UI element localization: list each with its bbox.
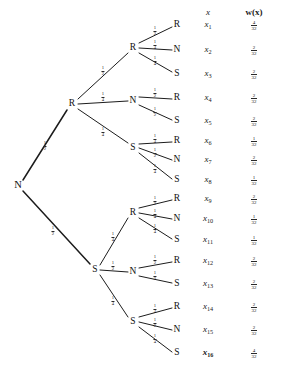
weight-value: 232 bbox=[251, 191, 257, 207]
outcome-label: x4 bbox=[204, 93, 211, 104]
outcome-index: 2 bbox=[208, 48, 211, 55]
fraction: 14 bbox=[101, 127, 104, 137]
leaf-node-s: S bbox=[174, 116, 179, 126]
edge-probability-label: 12 bbox=[153, 251, 156, 267]
column-header-weight: w(x) bbox=[246, 7, 263, 17]
edge-probability-label: 12 bbox=[153, 103, 156, 119]
fraction: 432 bbox=[251, 348, 257, 359]
weight-value: 232 bbox=[251, 42, 257, 58]
outcome-index: 13 bbox=[207, 282, 213, 289]
outcome-label: x10 bbox=[203, 214, 213, 225]
tree-node-n: N bbox=[130, 267, 137, 277]
fraction: 232 bbox=[251, 325, 257, 336]
weight-value: 232 bbox=[251, 299, 257, 315]
outcome-index: 12 bbox=[207, 259, 213, 266]
outcome-index: 5 bbox=[208, 119, 211, 126]
fraction: 232 bbox=[251, 45, 257, 56]
edge-probability-label: 12 bbox=[153, 84, 156, 100]
leaf-node-s: S bbox=[174, 69, 179, 79]
tree-node-r: R bbox=[130, 43, 136, 53]
edge-probability-label: 14 bbox=[111, 228, 114, 244]
tree-edge bbox=[23, 191, 90, 264]
edge-probability-label: 12 bbox=[51, 222, 54, 238]
edge-probability-label: 14 bbox=[153, 36, 156, 52]
fraction: 12 bbox=[111, 261, 114, 271]
fraction: 132 bbox=[251, 235, 257, 246]
outcome-index: 10 bbox=[207, 217, 213, 224]
leaf-node-r: R bbox=[174, 194, 180, 204]
weight-value: 232 bbox=[251, 253, 257, 269]
outcome-index: 4 bbox=[208, 96, 211, 103]
edge-probability-label: 14 bbox=[101, 88, 104, 104]
outcome-index: 7 bbox=[208, 158, 211, 165]
tree-node-r: R bbox=[69, 99, 75, 109]
leaf-node-r: R bbox=[174, 302, 180, 312]
outcome-index: 11 bbox=[207, 238, 213, 245]
edge-probability-label: 12 bbox=[153, 314, 156, 330]
fraction: 132 bbox=[251, 214, 257, 225]
edge-probability-label: 14 bbox=[153, 205, 156, 221]
outcome-label: x8 bbox=[204, 175, 211, 186]
edge-probability-label: 14 bbox=[153, 52, 156, 68]
fraction: 432 bbox=[251, 20, 257, 31]
weight-value: 132 bbox=[251, 133, 257, 149]
edge-probability-label: 12 bbox=[43, 137, 46, 153]
fraction: 232 bbox=[251, 155, 257, 166]
fraction: 12 bbox=[51, 226, 54, 236]
tree-node-s: S bbox=[130, 317, 135, 327]
tree-node-r: R bbox=[130, 208, 136, 218]
outcome-index: 8 bbox=[208, 178, 211, 185]
fraction: 14 bbox=[101, 92, 104, 102]
weight-value: 232 bbox=[251, 66, 257, 82]
outcome-label: x16 bbox=[203, 348, 214, 359]
leaf-node-s: S bbox=[174, 175, 179, 185]
edge-probability-label: 14 bbox=[111, 292, 114, 308]
leaf-node-r: R bbox=[174, 93, 180, 103]
fraction: 12 bbox=[153, 271, 156, 281]
outcome-label: x11 bbox=[203, 235, 213, 246]
leaf-node-n: N bbox=[174, 325, 181, 335]
fraction: 12 bbox=[153, 255, 156, 265]
fraction: 12 bbox=[153, 107, 156, 117]
fraction: 12 bbox=[153, 318, 156, 328]
weight-value: 232 bbox=[251, 90, 257, 106]
edge-probability-label: 14 bbox=[101, 123, 104, 139]
outcome-label: x9 bbox=[204, 194, 211, 205]
fraction: 132 bbox=[251, 136, 257, 147]
fraction: 12 bbox=[43, 141, 46, 151]
outcome-index: 15 bbox=[207, 328, 213, 335]
fraction: 12 bbox=[153, 148, 156, 158]
leaf-node-r: R bbox=[174, 136, 180, 146]
fraction: 14 bbox=[153, 334, 156, 344]
fraction: 14 bbox=[111, 296, 114, 306]
weight-value: 232 bbox=[251, 113, 257, 129]
edge-probability-label: 12 bbox=[101, 62, 104, 78]
fraction: 232 bbox=[251, 302, 257, 313]
weight-value: 132 bbox=[251, 211, 257, 227]
weight-value: 232 bbox=[251, 322, 257, 338]
weight-value: 232 bbox=[251, 276, 257, 292]
edge-probability-label: 12 bbox=[111, 257, 114, 273]
leaf-node-r: R bbox=[174, 20, 180, 30]
weight-value: 432 bbox=[251, 17, 257, 33]
leaf-node-s: S bbox=[174, 348, 179, 358]
edge-probability-label: 14 bbox=[153, 330, 156, 346]
outcome-index: 6 bbox=[208, 139, 211, 146]
tree-edges bbox=[0, 0, 283, 366]
outcome-label: x2 bbox=[204, 45, 211, 56]
edge-probability-label: 14 bbox=[153, 160, 156, 176]
fraction: 14 bbox=[111, 232, 114, 242]
fraction: 232 bbox=[251, 116, 257, 127]
outcome-label: x13 bbox=[203, 279, 213, 290]
fraction: 12 bbox=[101, 66, 104, 76]
outcome-index: 16 bbox=[207, 351, 213, 358]
fraction: 14 bbox=[153, 134, 156, 144]
weight-value: 132 bbox=[251, 172, 257, 188]
outcome-index: 9 bbox=[208, 197, 211, 204]
leaf-node-r: R bbox=[174, 256, 180, 266]
edge-probability-label: 14 bbox=[153, 220, 156, 236]
fraction: 232 bbox=[251, 69, 257, 80]
outcome-index: 14 bbox=[207, 305, 213, 312]
outcome-index: 3 bbox=[208, 72, 211, 79]
fraction: 232 bbox=[251, 93, 257, 104]
